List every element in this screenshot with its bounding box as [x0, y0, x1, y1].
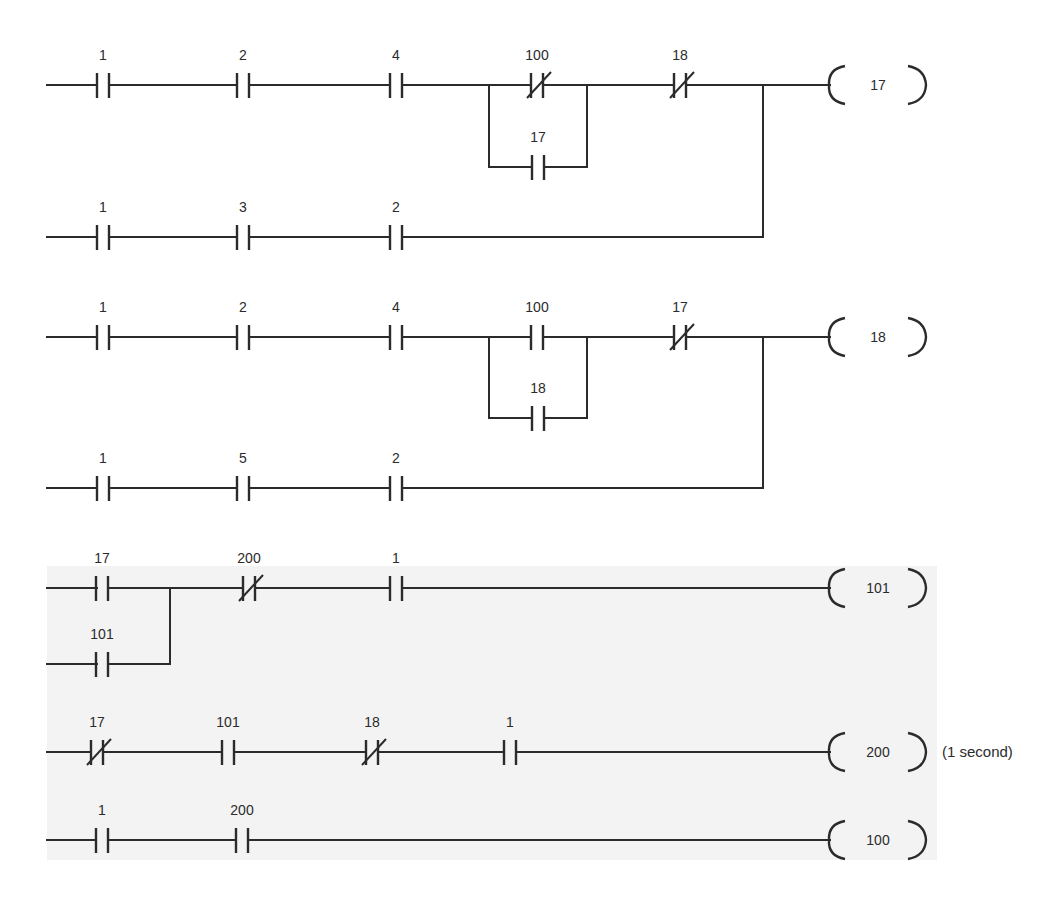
normally-open-contact-icon: 1 [97, 299, 109, 350]
normally-open-contact-icon: 18 [530, 380, 546, 431]
normally-open-contact-icon: 1 [97, 450, 109, 501]
contact-label: 100 [525, 47, 549, 63]
contact-label: 100 [525, 299, 549, 315]
contact-label: 2 [239, 47, 247, 63]
contact-label: 5 [239, 450, 247, 466]
normally-open-contact-icon: 3 [237, 199, 249, 250]
normally-open-contact-icon: 1 [97, 199, 109, 250]
contact-label: 1 [99, 450, 107, 466]
contact-label: 17 [94, 550, 110, 566]
contact-label: 4 [392, 299, 400, 315]
ladder-diagram: 1241001718132171241001817152181710120011… [0, 0, 1064, 897]
shaded-region [47, 566, 937, 860]
contact-label: 18 [672, 47, 688, 63]
coil-icon: 18 [829, 318, 926, 356]
contact-label: 1 [98, 802, 106, 818]
rung-17: 124100171813217 [47, 47, 926, 250]
contact-label: 101 [90, 626, 114, 642]
timer-note: (1 second) [942, 743, 1013, 760]
normally-open-contact-icon: 5 [237, 450, 249, 501]
contact-label: 200 [230, 802, 254, 818]
contact-label: 2 [239, 299, 247, 315]
contact-label: 3 [239, 199, 247, 215]
contact-label: 2 [392, 199, 400, 215]
contact-label: 17 [530, 129, 546, 145]
rung-18: 124100181715218 [47, 299, 926, 501]
coil-label: 101 [866, 580, 890, 596]
contact-label: 1 [99, 299, 107, 315]
contact-label: 4 [392, 47, 400, 63]
contact-label: 2 [392, 450, 400, 466]
contact-label: 200 [237, 550, 261, 566]
normally-open-contact-icon: 2 [390, 450, 402, 501]
coil-icon: 17 [829, 66, 926, 104]
coil-label: 18 [870, 329, 886, 345]
normally-open-contact-icon: 4 [390, 299, 402, 350]
contact-label: 18 [364, 714, 380, 730]
contact-label: 1 [99, 199, 107, 215]
normally-open-contact-icon: 2 [390, 199, 402, 250]
normally-open-contact-icon: 1 [97, 47, 109, 98]
normally-closed-contact-icon: 18 [670, 47, 694, 98]
contact-label: 1 [392, 550, 400, 566]
coil-label: 17 [870, 77, 886, 93]
normally-open-contact-icon: 4 [390, 47, 402, 98]
contact-label: 18 [530, 380, 546, 396]
contact-label: 1 [99, 47, 107, 63]
normally-open-contact-icon: 2 [237, 47, 249, 98]
contact-label: 17 [89, 714, 105, 730]
coil-label: 100 [866, 832, 890, 848]
contact-label: 17 [672, 299, 688, 315]
normally-open-contact-icon: 2 [237, 299, 249, 350]
coil-label: 200 [866, 744, 890, 760]
normally-open-contact-icon: 100 [525, 299, 549, 350]
normally-closed-contact-icon: 17 [670, 299, 694, 350]
normally-open-contact-icon: 17 [530, 129, 546, 180]
normally-closed-contact-icon: 100 [525, 47, 551, 98]
contact-label: 101 [216, 714, 240, 730]
contact-label: 1 [506, 714, 514, 730]
